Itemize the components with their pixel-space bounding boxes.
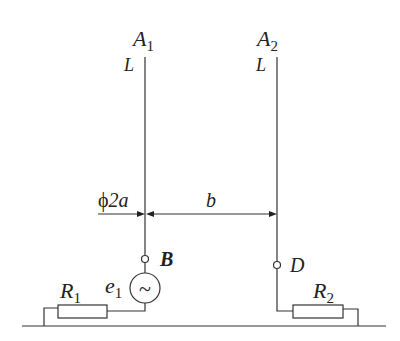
source-to-r1-wire [107, 303, 145, 311]
arrowhead-icon [269, 211, 277, 217]
terminal-b-label: B [159, 248, 173, 270]
diameter-label: ϕ2a [98, 189, 129, 212]
arrowhead-icon [146, 211, 154, 217]
conductor-a1-label: A1 [131, 26, 154, 54]
arrowhead-icon [137, 211, 145, 217]
ac-tilde-icon: ~ [139, 276, 151, 301]
separation-label: b [206, 189, 216, 211]
diameter-dimension: ϕ2a [98, 189, 145, 217]
terminal-d-icon [274, 262, 281, 269]
antenna-circuit-diagram: A1 L A2 L ϕ2a b B ~ e1 R1 D R2 [0, 0, 400, 341]
conductor-a2-label: A2 [255, 26, 278, 54]
resistor-r1-icon [58, 305, 107, 318]
source-label: e1 [105, 273, 122, 301]
resistor-r1-label: R1 [59, 278, 81, 306]
r1-to-ground-wire [44, 308, 58, 326]
conductor-a1-length-label: L [123, 55, 134, 75]
resistor-r2-icon [293, 305, 343, 318]
resistor-r2-label: R2 [312, 278, 334, 306]
conductor-a2-length-label: L [255, 55, 266, 75]
separation-dimension: b [146, 189, 277, 217]
terminal-b-icon [142, 256, 149, 263]
r2-to-ground-wire [343, 309, 358, 326]
terminal-d-label: D [289, 254, 305, 276]
